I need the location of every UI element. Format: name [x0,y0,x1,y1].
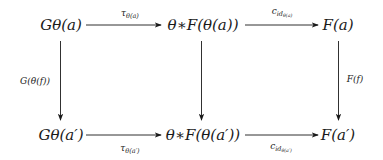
label-right-vertical: F(f) [347,75,364,84]
label-bot-left-to-mid: τθ(a′) [120,144,139,154]
node-bot-left: Gθ(a′) [38,128,83,143]
node-top-right: F(a) [322,18,353,33]
node-top-mid: θ∗F(θ(a)) [167,18,238,33]
node-top-left: Gθ(a) [40,18,82,33]
label-top-left-to-mid: τθ(a) [121,9,139,19]
label-top-mid-to-right: cidθ(a) [272,7,292,19]
label-bot-mid-to-right: cidθ(a′) [270,142,292,154]
node-bot-mid: θ∗F(θ(a′)) [166,128,240,143]
label-left-vertical: G(θ(f)) [20,77,50,86]
node-bot-right: F(a′) [321,128,355,143]
